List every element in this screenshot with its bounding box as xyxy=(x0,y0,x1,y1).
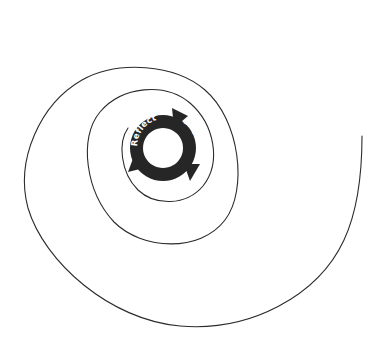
arrow-head-right-icon xyxy=(184,164,200,181)
spiral-diagram: Engage Activate Reflect xyxy=(0,0,378,345)
spiral-line xyxy=(25,67,362,326)
cycle-ring: Engage Activate Reflect xyxy=(128,108,207,198)
